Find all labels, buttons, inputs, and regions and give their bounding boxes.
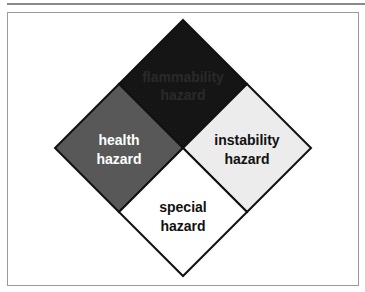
flammability-label-line1: flammability — [142, 69, 224, 85]
special-label-line2: hazard — [160, 218, 205, 234]
page: flammability hazard health hazard instab… — [0, 0, 365, 292]
flammability-label-line2: hazard — [160, 87, 205, 103]
instability-label-line2: hazard — [224, 151, 269, 167]
instability-label-line1: instability — [214, 132, 280, 148]
hazard-diamond: flammability hazard health hazard instab… — [0, 0, 365, 292]
health-label-line2: hazard — [96, 151, 141, 167]
special-label-line1: special — [159, 199, 206, 215]
health-label-line1: health — [98, 132, 139, 148]
